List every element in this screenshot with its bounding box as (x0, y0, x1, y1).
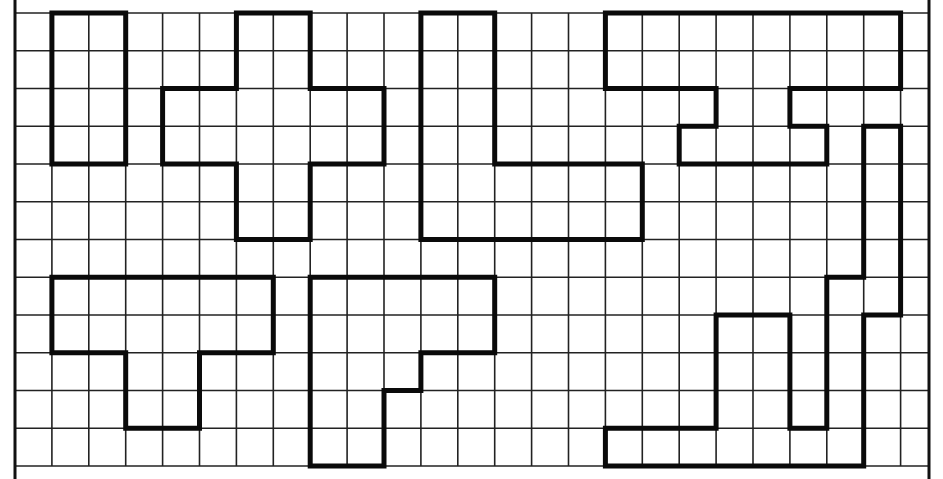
shape-stepped-shape (310, 277, 495, 466)
grid-worksheet (0, 0, 943, 479)
grid-paper (0, 0, 943, 479)
